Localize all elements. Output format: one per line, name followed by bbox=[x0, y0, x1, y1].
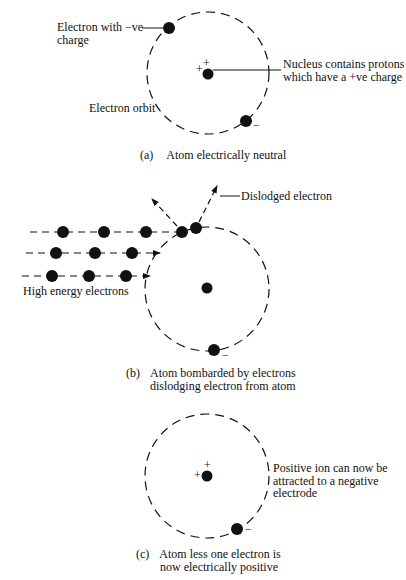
minus-sign: − bbox=[253, 119, 260, 131]
minus-sign: − bbox=[222, 349, 229, 361]
electron-bottom bbox=[240, 115, 252, 127]
plus-sign: + bbox=[204, 459, 211, 471]
nucleus bbox=[202, 283, 213, 294]
electron-label: Electron with −ve charge bbox=[57, 21, 143, 46]
caption-b: (b)Atom bombarded by electrons dislodgin… bbox=[126, 367, 296, 392]
caption-c: (c)Atom less one electron is now electri… bbox=[136, 548, 281, 573]
positive-ion-label: Positive ion can now be attracted to a n… bbox=[273, 462, 388, 500]
nucleus-label: Nucleus contains protons which have a +v… bbox=[283, 58, 404, 83]
orbit-label: Electron orbit bbox=[89, 102, 155, 115]
panel-b-atom bbox=[22, 186, 269, 356]
electron-bottom bbox=[231, 523, 243, 535]
plus-sign: + bbox=[196, 63, 203, 75]
atom-ionisation-diagram: Electron with −ve charge + + − Nucleus c… bbox=[0, 0, 406, 580]
nucleus bbox=[202, 471, 213, 482]
caption-a: (a) Atom electrically neutral bbox=[140, 149, 286, 162]
nucleus bbox=[203, 69, 214, 80]
dislodged-electron-label: Dislodged electron bbox=[241, 190, 332, 203]
electron-bottom bbox=[208, 344, 220, 356]
electron-top bbox=[163, 22, 175, 34]
high-energy-electrons-label: High energy electrons bbox=[23, 285, 129, 298]
panel-a-atom bbox=[142, 12, 281, 134]
plus-sign: + bbox=[194, 469, 201, 481]
colliding-electron bbox=[176, 226, 188, 238]
panel-c-atom bbox=[145, 414, 269, 538]
plus-sign: + bbox=[203, 57, 210, 69]
dislodged-electron bbox=[190, 222, 202, 234]
minus-sign: − bbox=[245, 523, 252, 535]
